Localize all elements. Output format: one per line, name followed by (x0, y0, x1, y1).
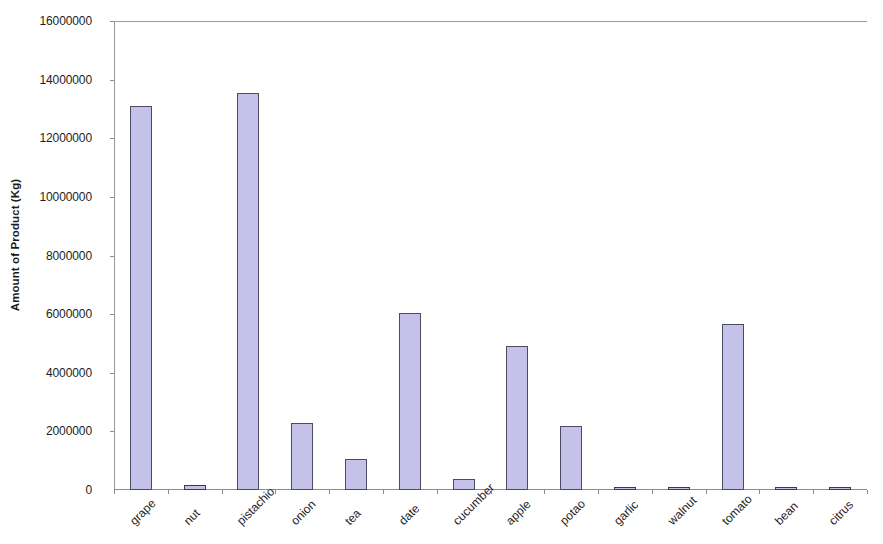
x-tick-mark (544, 490, 545, 494)
x-tick-label-bean: bean (772, 499, 801, 528)
y-tick-label: 2000000 (0, 424, 92, 438)
y-tick-label: 4000000 (0, 366, 92, 380)
x-tick-mark (867, 490, 868, 494)
y-tick-label: 16000000 (0, 14, 92, 28)
x-tick-label-walnut: walnut (665, 493, 699, 527)
x-tick-label-pistachio: pistachio (234, 485, 277, 528)
x-tick-mark (222, 490, 223, 494)
x-tick-label-tea: tea (342, 506, 364, 528)
x-tick-mark (598, 490, 599, 494)
bar-tea (345, 459, 367, 490)
y-tick-label: 10000000 (0, 190, 92, 204)
bar-citrus (829, 487, 851, 490)
bar-chart: Amount of Product (Kg) 16000000140000001… (0, 0, 883, 544)
y-tick-mark (110, 21, 114, 22)
x-tick-mark (706, 490, 707, 494)
x-tick-label-onion: onion (288, 497, 319, 528)
x-tick-mark (168, 490, 169, 494)
x-tick-mark (813, 490, 814, 494)
y-tick-mark (110, 256, 114, 257)
bar-walnut (668, 487, 690, 490)
x-tick-label-potao: potao (557, 497, 588, 528)
y-tick-mark (110, 373, 114, 374)
bar-bean (775, 487, 797, 490)
x-tick-label-nut: nut (181, 506, 203, 528)
y-tick-mark (110, 197, 114, 198)
y-tick-label: 8000000 (0, 249, 92, 263)
x-tick-label-grape: grape (127, 496, 159, 528)
x-tick-label-date: date (396, 501, 422, 527)
x-tick-mark (437, 490, 438, 494)
bar-tomato (722, 324, 744, 490)
bar-garlic (614, 487, 636, 490)
plot-frame (114, 21, 867, 490)
x-tick-mark (759, 490, 760, 494)
bar-potao (560, 426, 582, 490)
y-tick-label: 6000000 (0, 307, 92, 321)
x-tick-label-citrus: citrus (826, 498, 856, 528)
y-tick-mark (110, 431, 114, 432)
bar-grape (130, 106, 152, 490)
bar-apple (506, 346, 528, 490)
plot-area: 1600000014000000120000001000000080000006… (114, 21, 867, 490)
y-tick-label: 12000000 (0, 131, 92, 145)
bar-pistachio (237, 93, 259, 490)
y-tick-mark (110, 314, 114, 315)
x-tick-label-tomato: tomato (719, 492, 755, 528)
bar-onion (291, 423, 313, 490)
y-tick-label: 0 (0, 483, 92, 497)
x-tick-label-garlic: garlic (611, 498, 641, 528)
x-tick-mark (114, 490, 115, 494)
bar-cucumber (453, 479, 475, 490)
y-tick-label: 14000000 (0, 73, 92, 87)
x-tick-label-apple: apple (503, 497, 534, 528)
x-tick-mark (383, 490, 384, 494)
x-tick-mark (652, 490, 653, 494)
bar-date (399, 313, 421, 490)
x-tick-mark (329, 490, 330, 494)
bar-nut (184, 485, 206, 490)
y-tick-mark (110, 80, 114, 81)
y-tick-mark (110, 138, 114, 139)
